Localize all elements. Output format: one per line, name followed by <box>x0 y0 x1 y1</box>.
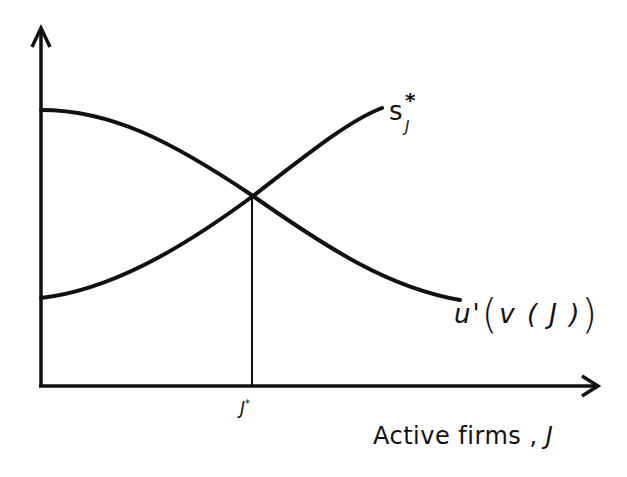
j-star-sup: * <box>245 398 250 409</box>
u-label-inner: v ( J ) <box>499 299 581 329</box>
curve-s-j-star <box>41 108 382 298</box>
x-axis-label-variable: J <box>546 422 554 450</box>
x-axis-label: Active firms , J <box>373 422 553 450</box>
s-label-subscript: J <box>405 118 409 136</box>
diagram-canvas <box>0 0 627 477</box>
curve-label-u-prime: u'(v ( J )) <box>454 286 599 332</box>
u-label-open-paren: ( <box>482 291 500 337</box>
u-label-close-paren: ) <box>581 291 599 337</box>
u-label-prefix: u' <box>454 299 482 329</box>
x-tick-j-star: J* <box>240 398 250 418</box>
curve-label-s-j-star: s * J <box>389 96 403 126</box>
x-axis-label-text: Active firms , <box>373 422 538 450</box>
s-label-base: s <box>389 96 403 126</box>
s-label-star: * <box>405 88 415 112</box>
curve-u-prime <box>41 110 460 300</box>
